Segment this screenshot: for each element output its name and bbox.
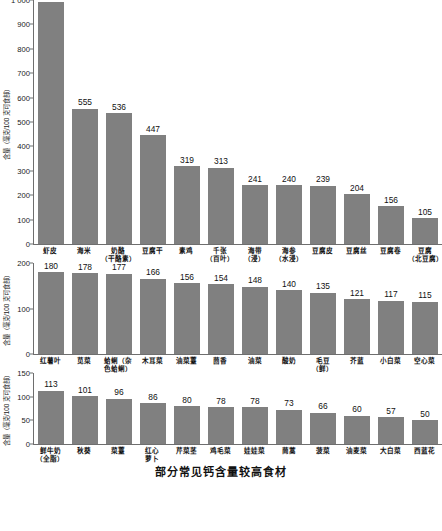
bar [174, 283, 200, 354]
bar-item: 241 [238, 0, 272, 244]
bar-item: 73 [272, 373, 306, 444]
bar-item: 101 [68, 373, 102, 444]
bar-item: 156 [374, 0, 408, 244]
bar [310, 293, 336, 354]
bar-item: 121 [340, 263, 374, 354]
bar [106, 399, 132, 444]
x-tick-label: 茼蒿 [272, 445, 306, 463]
bar [174, 166, 200, 244]
chart-panel-1: 含量（毫克/100 克可食部） 010020030040050060070080… [0, 0, 442, 263]
bar [378, 206, 404, 244]
bar-item: 555 [68, 0, 102, 244]
x-tick-label: 素鸡 [169, 245, 203, 263]
bar-item: 78 [204, 373, 238, 444]
bar-value-label: 239 [306, 175, 340, 183]
x-tick-label: 毛豆（鲜） [306, 355, 340, 373]
x-tick-label: 秋葵 [67, 445, 101, 463]
bar [140, 135, 166, 244]
y-axis-title-1: 含量（毫克/100 克可食部） [0, 0, 11, 245]
bar-item: 86 [136, 373, 170, 444]
plot-area-3: 11310196868078787366605750 [33, 373, 442, 445]
y-tick-label: 900 [17, 20, 30, 29]
bar [242, 407, 268, 444]
bar-value-label: 240 [272, 175, 306, 183]
bar [242, 287, 268, 354]
bar [106, 274, 132, 355]
bar [38, 2, 64, 244]
y-tick-label: 700 [17, 69, 30, 78]
x-tick-label: 空心菜 [408, 355, 442, 373]
bar-value-label: 140 [272, 280, 306, 288]
bar-item: 536 [102, 0, 136, 244]
bar-item: 135 [306, 263, 340, 354]
y-axis-title-3: 含量（毫克/100 克可食部） [0, 373, 11, 445]
bar-value-label: 555 [68, 98, 102, 106]
y-tick-label: 200 [17, 191, 30, 200]
bar-value-label: 180 [34, 262, 68, 270]
y-tick-label: 100 [17, 392, 30, 401]
bar [38, 272, 64, 354]
y-axis-ticks-3: 050100150 [11, 373, 33, 445]
y-axis-ticks-1: 01002003004005006007008009001 000 [11, 0, 33, 245]
y-tick-label: 400 [17, 142, 30, 151]
bar-value-label: 204 [340, 184, 374, 192]
bar-item: 447 [136, 0, 170, 244]
plot-area-2: 180178177166156154148140135121117115 [33, 263, 442, 355]
x-tick-label: 木耳菜 [135, 355, 169, 373]
x-axis-labels-2: 红薯叶苋菜蛤蜊（杂色蛤蜊）木耳菜油菜薹茴香油菜酸奶毛豆（鲜）芥蓝小白菜空心菜 [0, 355, 442, 373]
chart-panel-3: 含量（毫克/100 克可食部） 050100150 11310196868078… [0, 373, 442, 463]
bar [310, 186, 336, 244]
x-tick-label: 红薯叶 [33, 355, 67, 373]
y-tick-label: 50 [22, 416, 30, 425]
bar-value-label: 148 [238, 276, 272, 284]
x-tick-label: 菠菜 [306, 445, 340, 463]
bar-item: 80 [170, 373, 204, 444]
x-tick-label: 豆腐卷 [374, 245, 408, 263]
bar [276, 290, 302, 354]
bar-value-label: 66 [306, 402, 340, 410]
bar [242, 185, 268, 244]
bar-value-label: 154 [204, 274, 238, 282]
bar [140, 279, 166, 355]
bar-value-label: 166 [136, 268, 170, 276]
y-tick-label: 100 [17, 304, 30, 313]
bar-item: 239 [306, 0, 340, 244]
bar-item: 60 [340, 373, 374, 444]
bar-item: 180 [34, 263, 68, 354]
bar [276, 185, 302, 244]
bar-item: 166 [136, 263, 170, 354]
bar-value-label: 96 [102, 388, 136, 396]
x-tick-label: 酸奶 [272, 355, 306, 373]
bar-value-label: 73 [272, 399, 306, 407]
bar-value-label: 60 [340, 405, 374, 413]
x-tick-label: 苋菜 [67, 355, 101, 373]
bar-item: 240 [272, 0, 306, 244]
bar-value-label: 135 [306, 282, 340, 290]
bar-value-label: 536 [102, 103, 136, 111]
bar-item: 313 [204, 0, 238, 244]
bar-value-label: 105 [408, 208, 442, 216]
figure-caption: 部分常见钙含量较高食材 [0, 463, 442, 479]
x-tick-label: 油麦菜 [340, 445, 374, 463]
bar-value-label: 80 [170, 396, 204, 404]
bar-item: 66 [306, 373, 340, 444]
x-tick-label: 茴香 [203, 355, 237, 373]
bar [72, 109, 98, 244]
y-tick-label: 600 [17, 93, 30, 102]
bar [412, 218, 438, 244]
bar-item: 140 [272, 263, 306, 354]
x-tick-label: 千张（百叶） [203, 245, 237, 263]
calcium-content-figure: 含量（毫克/100 克可食部） 010020030040050060070080… [0, 0, 442, 531]
y-axis-ticks-2: 0100200 [11, 263, 33, 355]
y-tick-label: 150 [17, 369, 30, 378]
bar-value-label: 156 [374, 196, 408, 204]
bar-item: 105 [408, 0, 442, 244]
bar-value-label: 50 [408, 410, 442, 418]
y-tick-label: 500 [17, 118, 30, 127]
x-axis-labels-1: 虾皮海米奶酪（干酪素）豆腐干素鸡千张（百叶）海带（浸）海参（水浸）豆腐皮豆腐丝豆… [0, 245, 442, 263]
bar-series-3: 11310196868078787366605750 [34, 373, 442, 444]
x-tick-label: 油菜薹 [169, 355, 203, 373]
bar-value-label: 156 [170, 273, 204, 281]
y-tick-label: 800 [17, 44, 30, 53]
bar [412, 420, 438, 444]
